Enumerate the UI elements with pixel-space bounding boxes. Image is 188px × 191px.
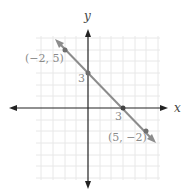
plotted-line [55,39,156,143]
y-axis [85,29,91,189]
point-label-5-neg2: (5, −2) [108,131,147,144]
x-axis-right-arrow-icon [160,105,168,111]
y-axis-down-arrow-icon [85,181,91,189]
coordinate-plane: x y (−2, 5) 3 3 (5, −2) [0,0,188,191]
y-axis-label: y [83,9,91,23]
point-label-neg2-5: (−2, 5) [25,52,64,65]
y-intercept-label: 3 [78,72,85,85]
x-axis-label: x [174,101,181,115]
x-intercept-label: 3 [115,110,122,123]
point-0-3 [86,71,91,76]
y-axis-up-arrow-icon [85,29,91,37]
x-axis-left-arrow-icon [9,105,17,111]
